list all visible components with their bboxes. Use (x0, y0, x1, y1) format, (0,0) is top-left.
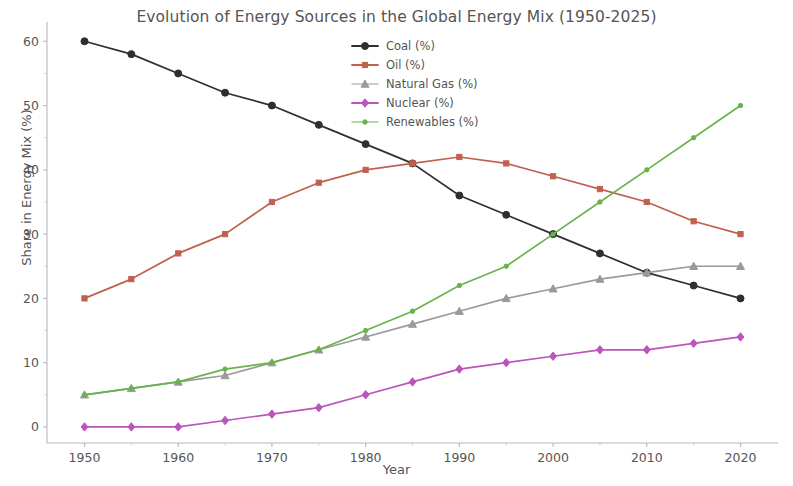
data-point-marker (550, 174, 555, 179)
series-renewables (82, 103, 742, 397)
y-tick-label: 40 (23, 162, 39, 177)
x-tick-label: 2010 (631, 450, 663, 465)
data-point-marker (316, 180, 321, 185)
data-point-marker (222, 416, 229, 424)
data-point-marker (223, 367, 227, 371)
data-point-marker (363, 120, 367, 124)
legend-label-1: Coal (%) (386, 39, 435, 53)
data-point-marker (596, 250, 603, 257)
data-point-marker (410, 161, 415, 166)
data-point-marker (551, 232, 555, 236)
legend-label-5: Renewables (%) (386, 115, 478, 129)
data-point-marker (128, 423, 135, 431)
data-point-marker (737, 295, 744, 302)
data-point-marker (691, 219, 696, 224)
x-tick-label: 1980 (350, 450, 382, 465)
data-point-marker (81, 423, 88, 431)
y-tick-label: 0 (31, 419, 39, 434)
legend-label-4: Nuclear (%) (386, 96, 454, 110)
data-point-marker (82, 393, 86, 397)
x-tick-label: 2000 (537, 450, 569, 465)
data-point-marker (645, 168, 649, 172)
y-tick-label: 20 (23, 291, 39, 306)
data-point-marker (82, 296, 87, 301)
x-tick-label: 1960 (162, 450, 194, 465)
series-line (84, 266, 740, 395)
data-point-marker (456, 365, 463, 373)
data-point-marker (362, 43, 369, 50)
data-point-marker (598, 200, 602, 204)
data-point-marker (315, 121, 322, 128)
series-line (84, 157, 740, 298)
data-point-marker (81, 38, 88, 45)
x-tick-label: 1990 (443, 450, 475, 465)
data-point-marker (457, 283, 461, 287)
y-tick-label: 60 (23, 34, 39, 49)
data-point-marker (129, 386, 133, 390)
data-point-marker (410, 309, 414, 313)
data-point-marker (363, 328, 367, 332)
data-point-marker (597, 187, 602, 192)
data-point-marker (503, 211, 510, 218)
data-point-marker (362, 62, 367, 67)
x-tick-label: 2020 (725, 450, 757, 465)
x-tick-label: 1950 (69, 450, 101, 465)
x-tick-label: 1970 (256, 450, 288, 465)
data-point-marker (362, 99, 369, 107)
data-point-marker (690, 339, 697, 347)
y-tick-label: 50 (23, 98, 39, 113)
data-point-marker (690, 282, 697, 289)
data-point-marker (550, 352, 557, 360)
data-point-marker (128, 51, 135, 58)
plot-area: 0102030405060195019601970198019902000201… (0, 0, 793, 486)
legend-label-3: Natural Gas (%) (386, 77, 478, 91)
legend-label-2: Oil (%) (386, 58, 425, 72)
data-point-marker (270, 360, 274, 364)
y-tick-label: 10 (23, 355, 39, 370)
data-point-marker (644, 199, 649, 204)
data-point-marker (175, 423, 182, 431)
data-point-marker (269, 199, 274, 204)
data-point-marker (268, 410, 275, 418)
data-point-marker (504, 161, 509, 166)
data-point-marker (456, 192, 463, 199)
chart-figure: Evolution of Energy Sources in the Globa… (0, 0, 793, 486)
data-point-marker (176, 251, 181, 256)
y-tick-label: 30 (23, 227, 39, 242)
data-point-marker (362, 141, 369, 148)
data-point-marker (317, 348, 321, 352)
data-point-marker (691, 135, 695, 139)
data-point-marker (738, 103, 742, 107)
data-point-marker (504, 264, 508, 268)
data-point-marker (129, 276, 134, 281)
data-point-marker (738, 232, 743, 237)
data-point-marker (362, 391, 369, 399)
data-point-marker (737, 333, 744, 341)
data-point-marker (457, 154, 462, 159)
series-line (84, 106, 740, 395)
data-point-marker (503, 358, 510, 366)
data-point-marker (268, 102, 275, 109)
data-point-marker (175, 70, 182, 77)
data-point-marker (176, 380, 180, 384)
data-point-marker (643, 346, 650, 354)
data-point-marker (315, 403, 322, 411)
data-point-marker (409, 378, 416, 386)
data-point-marker (222, 232, 227, 237)
series-oil (82, 154, 743, 301)
data-point-marker (363, 167, 368, 172)
data-point-marker (596, 346, 603, 354)
chart-legend: Coal (%)Oil (%)Natural Gas (%)Nuclear (%… (352, 39, 478, 129)
data-point-marker (222, 89, 229, 96)
